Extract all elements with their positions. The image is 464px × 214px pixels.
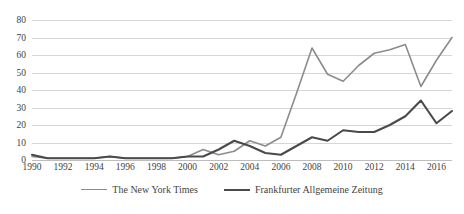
x-axis-tick-label: 1998 (147, 162, 166, 172)
x-axis-tick-label: 2000 (178, 162, 197, 172)
chart-legend: The New York Times Frankfurter Allgemein… (0, 184, 464, 195)
x-axis-tick-label: 2010 (334, 162, 353, 172)
y-axis-tick-label: 30 (0, 103, 26, 113)
y-axis-tick-label: 60 (0, 50, 26, 60)
x-axis-labels: 1990199219941996199820002002200420062008… (32, 162, 452, 178)
x-axis-tick-label: 2002 (209, 162, 228, 172)
legend-item-the-new-york-times[interactable]: The New York Times (81, 184, 198, 195)
x-axis-tick-label: 1994 (85, 162, 104, 172)
y-axis-tick-label: 10 (0, 138, 26, 148)
line-chart: 01020304050607080 1990199219941996199820… (0, 0, 464, 214)
series-line-the-new-york-times (32, 38, 452, 159)
x-axis-tick-label: 1996 (116, 162, 135, 172)
x-axis-tick-label: 1992 (54, 162, 73, 172)
legend-swatch-icon (224, 189, 250, 191)
x-axis-tick-label: 2012 (365, 162, 384, 172)
x-axis-tick-label: 2008 (303, 162, 322, 172)
legend-item-frankfurter-allgemeine-zeitung[interactable]: Frankfurter Allgemeine Zeitung (224, 184, 383, 195)
plot-area (32, 20, 452, 160)
y-axis-tick-label: 20 (0, 120, 26, 130)
legend-label: The New York Times (112, 184, 198, 195)
y-axis-labels: 01020304050607080 (0, 20, 28, 160)
y-axis-tick-label: 80 (0, 15, 26, 25)
series-lines (32, 20, 452, 160)
legend-swatch-icon (81, 189, 107, 190)
legend-label: Frankfurter Allgemeine Zeitung (255, 184, 383, 195)
y-axis-tick-label: 40 (0, 85, 26, 95)
x-axis-tick-label: 1990 (23, 162, 42, 172)
y-axis-tick-label: 70 (0, 33, 26, 43)
gridline (32, 160, 452, 161)
x-axis-tick-label: 2014 (396, 162, 415, 172)
x-axis-tick-label: 2004 (240, 162, 259, 172)
x-axis-tick-label: 2016 (427, 162, 446, 172)
y-axis-tick-label: 50 (0, 68, 26, 78)
x-axis-tick-label: 2006 (271, 162, 290, 172)
series-line-frankfurter-allgemeine-zeitung (32, 101, 452, 159)
